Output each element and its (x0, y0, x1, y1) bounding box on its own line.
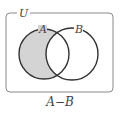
caption: A−B (45, 95, 74, 109)
venn-diagram: U A B A−B (0, 0, 120, 113)
set-a-label: A (38, 23, 47, 36)
set-b-label: B (74, 23, 83, 36)
universe-label: U (19, 7, 29, 20)
